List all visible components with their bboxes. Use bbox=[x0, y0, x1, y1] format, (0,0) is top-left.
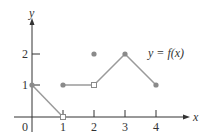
filled-point-3-2 bbox=[122, 51, 127, 56]
function-graph: x y 0 1 2 3 4 1 2 y = f(x) bbox=[0, 0, 207, 139]
segment-0-1-to-1-0 bbox=[32, 85, 63, 117]
x-tick-label-4: 4 bbox=[153, 120, 159, 134]
x-tick-label-2: 2 bbox=[91, 120, 97, 134]
x-axis-label: x bbox=[192, 110, 199, 124]
function-label: y = f(x) bbox=[147, 46, 184, 60]
filled-point-4-1 bbox=[153, 82, 158, 87]
open-point-2-1 bbox=[92, 83, 97, 88]
x-tick-label-3: 3 bbox=[122, 120, 128, 134]
x-ticks bbox=[63, 110, 156, 117]
x-tick-label-1: 1 bbox=[60, 120, 66, 134]
filled-point-0-1 bbox=[29, 82, 34, 87]
x-tick-label-0: 0 bbox=[22, 120, 28, 134]
y-ticks bbox=[32, 54, 40, 85]
segment-2-1-to-3-2-to-4-1 bbox=[94, 54, 156, 85]
y-tick-label-2: 2 bbox=[22, 47, 28, 61]
filled-point-1-1 bbox=[60, 82, 65, 87]
filled-point-2-2 bbox=[91, 51, 96, 56]
x-axis-arrow-icon bbox=[183, 115, 190, 120]
open-point-1-0 bbox=[61, 115, 66, 120]
y-tick-label-1: 1 bbox=[22, 78, 28, 92]
y-axis-label: y bbox=[28, 6, 35, 20]
